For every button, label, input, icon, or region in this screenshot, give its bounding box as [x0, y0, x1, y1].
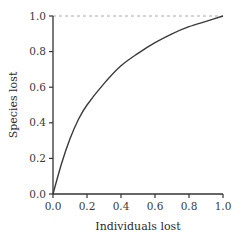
x-tick-label: 0.8	[181, 200, 198, 212]
y-tick-label: 0.0	[29, 188, 46, 200]
x-tick-label: 0.6	[147, 200, 164, 212]
plot-area	[53, 16, 223, 194]
y-tick-label: 0.4	[29, 116, 46, 128]
y-tick-label: 0.6	[29, 81, 46, 93]
y-tick-label: 1.0	[29, 10, 46, 22]
x-axis-label: Individuals lost	[95, 220, 181, 233]
y-tick-label: 0.2	[29, 152, 46, 164]
chart: 0.00.20.40.60.81.0 0.00.20.40.60.81.0 In…	[0, 0, 242, 239]
x-tick-label: 1.0	[215, 200, 232, 212]
x-axis-ticks: 0.00.20.40.60.81.0	[45, 194, 232, 212]
data-curve	[53, 16, 223, 194]
y-tick-label: 0.8	[29, 45, 46, 57]
y-axis-label: Species lost	[7, 71, 20, 138]
y-axis-ticks: 0.00.20.40.60.81.0	[29, 10, 53, 200]
x-tick-label: 0.4	[113, 200, 130, 212]
x-tick-label: 0.2	[79, 200, 96, 212]
x-tick-label: 0.0	[45, 200, 62, 212]
